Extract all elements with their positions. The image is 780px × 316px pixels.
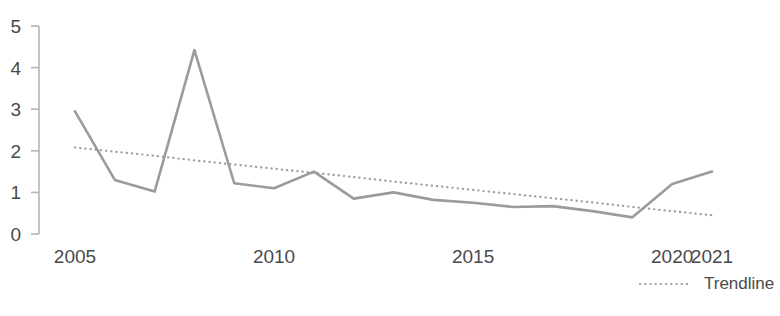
- x-axis-tick-label: 2005: [54, 246, 96, 267]
- y-axis-tick-label: 2: [10, 141, 21, 162]
- chart-legend: Trendline: [640, 274, 774, 293]
- x-axis-tick-label: 2020: [651, 246, 693, 267]
- y-axis-tick-label: 5: [10, 16, 21, 37]
- data-line-path: [75, 50, 712, 217]
- x-axis-tick-label: 2015: [452, 246, 494, 267]
- series-lines: [75, 50, 712, 217]
- y-axis-tick-label: 0: [10, 224, 21, 245]
- legend-label: Trendline: [704, 274, 774, 293]
- y-axis-tick-label: 1: [10, 182, 21, 203]
- line-chart: 012345 20052010201520202021 Trendline: [0, 0, 780, 316]
- x-axis: 20052010201520202021: [54, 246, 733, 267]
- chart-container: 012345 20052010201520202021 Trendline: [0, 0, 780, 316]
- x-axis-tick-label: 2010: [253, 246, 295, 267]
- y-axis-tick-label: 4: [10, 58, 21, 79]
- y-axis: 012345: [10, 16, 39, 245]
- y-axis-tick-label: 3: [10, 99, 21, 120]
- x-axis-tick-label: 2021: [691, 246, 733, 267]
- trendline-path: [75, 147, 712, 215]
